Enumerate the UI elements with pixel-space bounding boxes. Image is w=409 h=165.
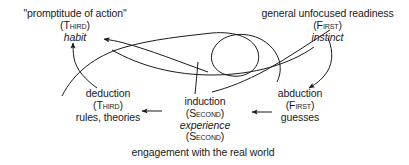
instinct-term: instinct xyxy=(250,32,405,44)
induction-category-second: (Second) xyxy=(157,131,253,143)
node-habit: "promptitude of action" (Third) habit xyxy=(4,8,146,43)
instinct-description: general unfocused readiness xyxy=(250,8,405,20)
node-instinct: general unfocused readiness (First) inst… xyxy=(250,8,405,43)
induction-category: (Second) xyxy=(157,108,253,120)
abduction-result: guesses xyxy=(252,112,348,124)
node-engagement: engagement with the real world xyxy=(108,147,298,159)
node-induction: induction (Second) experience (Second) xyxy=(157,96,253,143)
node-abduction: abduction (First) guesses xyxy=(252,88,348,123)
arrow-right-to-habit xyxy=(104,39,208,72)
deduction-category: (Third) xyxy=(48,100,168,112)
induction-stem xyxy=(195,62,198,94)
node-deduction: deduction (Third) rules, theories xyxy=(48,88,168,123)
induction-name: induction xyxy=(157,96,253,108)
habit-quote: "promptitude of action" xyxy=(4,8,146,20)
deduction-result: rules, theories xyxy=(48,112,168,124)
peirce-inference-diagram: "promptitude of action" (Third) habit ge… xyxy=(0,0,409,165)
abduction-name: abduction xyxy=(252,88,348,100)
arrow-instinct-to-abduction xyxy=(309,38,332,88)
arrow-deduction-to-habit xyxy=(73,43,97,88)
abduction-category: (First) xyxy=(252,100,348,112)
instinct-category: (First) xyxy=(250,20,405,32)
deduction-name: deduction xyxy=(48,88,168,100)
habit-term: habit xyxy=(4,32,146,44)
engagement-text: engagement with the real world xyxy=(108,147,298,159)
habit-category: (Third) xyxy=(4,20,146,32)
sweep-curve-lower xyxy=(112,47,314,75)
